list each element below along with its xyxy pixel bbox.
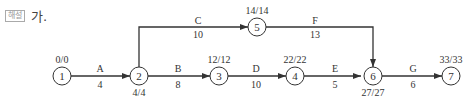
activity-F-name: F [312, 15, 318, 26]
node-6-time: 27/27 [362, 87, 385, 98]
activity-G-name: G [409, 63, 416, 74]
node-5-time: 14/14 [246, 5, 269, 16]
node-4-time: 22/22 [284, 54, 307, 65]
node-3-label: 3 [216, 70, 222, 82]
activity-D-name: D [252, 63, 259, 74]
network-diagram: 1 2 3 4 5 6 7 0/0 4/4 12/12 22/22 14/14 … [0, 0, 467, 105]
node-4-label: 4 [292, 70, 298, 82]
activity-E-name: E [332, 63, 338, 74]
activity-G-duration: 6 [411, 79, 416, 90]
activity-A-duration: 4 [98, 79, 103, 90]
node-6-label: 6 [370, 70, 376, 82]
activity-C-duration: 10 [193, 29, 203, 40]
activity-B-duration: 8 [176, 79, 181, 90]
node-5-label: 5 [254, 21, 260, 33]
activity-F-duration: 13 [310, 29, 320, 40]
activity-D-duration: 10 [251, 79, 261, 90]
node-7-time: 33/33 [440, 54, 463, 65]
node-3-time: 12/12 [208, 54, 231, 65]
node-1-time: 0/0 [56, 54, 69, 65]
node-1-label: 1 [59, 70, 65, 82]
activity-E-duration: 5 [333, 79, 338, 90]
node-2-time: 4/4 [133, 87, 146, 98]
activity-B-name: B [175, 63, 182, 74]
node-2-label: 2 [136, 70, 142, 82]
activity-A-name: A [96, 63, 104, 74]
activity-C-name: C [195, 15, 202, 26]
node-7-label: 7 [448, 70, 454, 82]
